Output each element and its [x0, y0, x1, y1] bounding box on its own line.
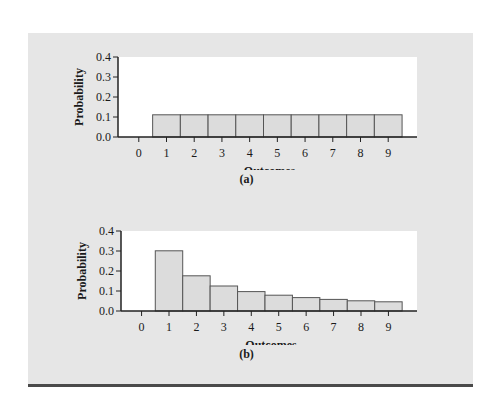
bar-4 [238, 292, 265, 311]
bar-9 [375, 302, 402, 311]
x-tick-label: 1 [166, 320, 172, 334]
x-axis-label: Outcomes [245, 338, 297, 345]
x-tick-label: 7 [331, 320, 337, 334]
x-tick-label: 8 [358, 320, 364, 334]
bar-3 [210, 286, 237, 311]
x-tick-label: 6 [303, 320, 309, 334]
bottom-rule [28, 384, 473, 387]
x-tick-label: 0 [139, 320, 145, 334]
y-tick-label: 0.0 [99, 304, 114, 318]
y-axis-label: Probability [75, 242, 89, 300]
bar-7 [320, 299, 347, 311]
y-tick-label: 0.3 [99, 244, 114, 258]
x-tick-label: 4 [248, 320, 254, 334]
bar-6 [292, 298, 319, 311]
y-tick-label: 0.1 [99, 284, 114, 298]
x-tick-label: 5 [276, 320, 282, 334]
x-tick-label: 3 [221, 320, 227, 334]
bar-1 [155, 251, 182, 311]
x-tick-label: 2 [193, 320, 199, 334]
bar-8 [347, 301, 374, 311]
y-tick-label: 0.4 [99, 224, 114, 238]
bar-5 [265, 295, 292, 311]
chart-b: 0.00.10.20.30.40123456789OutcomesProbabi… [0, 0, 493, 345]
y-tick-label: 0.2 [99, 264, 114, 278]
bar-2 [183, 276, 210, 311]
chart-b-caption: (b) [0, 347, 493, 362]
x-tick-label: 9 [385, 320, 391, 334]
